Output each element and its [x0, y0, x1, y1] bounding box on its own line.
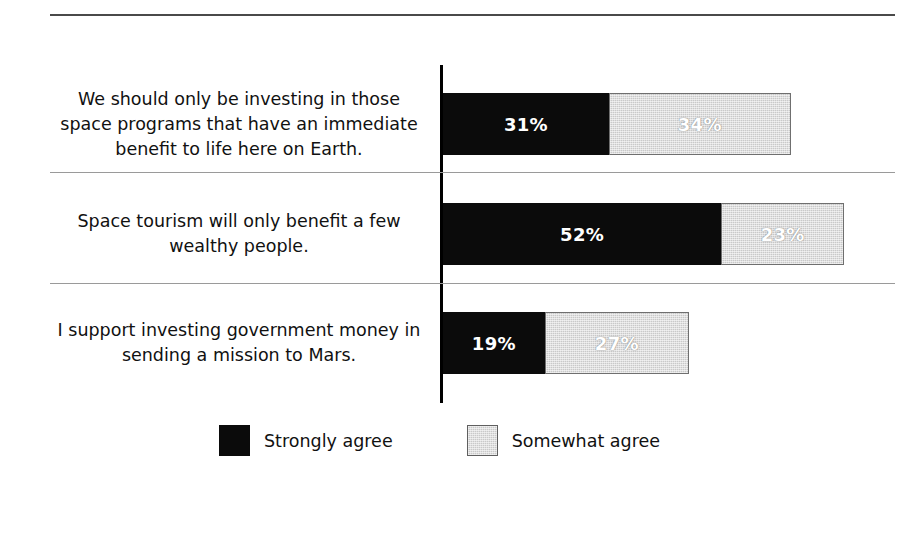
bar-segment-strongly-agree-2[interactable]: 19% [443, 312, 545, 374]
legend-item-strongly-agree[interactable]: Strongly agree [219, 425, 393, 456]
chart-row: We should only be investing in those spa… [0, 93, 910, 155]
bar-value-somewhat-agree-1: 23% [761, 224, 805, 245]
legend-swatch-somewhat-agree-icon [467, 425, 498, 456]
chart-legend: Strongly agree Somewhat agree [219, 425, 660, 456]
bar-segment-somewhat-agree-1[interactable]: 23% [721, 203, 844, 265]
row-separator-1 [50, 172, 895, 173]
chart-row: I support investing government money in … [0, 312, 910, 374]
bar-segment-somewhat-agree-2[interactable]: 27% [545, 312, 689, 374]
legend-swatch-strongly-agree-icon [219, 425, 250, 456]
stacked-bar-0: 31% 34% [443, 93, 791, 155]
bar-value-strongly-agree-0: 31% [504, 114, 548, 135]
bar-value-strongly-agree-2: 19% [472, 333, 516, 354]
plot-area: We should only be investing in those spa… [0, 60, 910, 405]
bar-value-strongly-agree-1: 52% [560, 224, 604, 245]
bar-segment-somewhat-agree-0[interactable]: 34% [609, 93, 791, 155]
category-label-1: Space tourism will only benefit a few we… [54, 209, 424, 259]
stacked-bar-1: 52% 23% [443, 203, 844, 265]
chart-row: Space tourism will only benefit a few we… [0, 203, 910, 265]
bar-segment-strongly-agree-1[interactable]: 52% [443, 203, 721, 265]
stacked-bar-2: 19% 27% [443, 312, 689, 374]
legend-label-somewhat-agree: Somewhat agree [512, 431, 660, 451]
category-label-0: We should only be investing in those spa… [54, 87, 424, 162]
category-label-2: I support investing government money in … [54, 318, 424, 368]
bar-value-somewhat-agree-2: 27% [595, 333, 639, 354]
bar-value-somewhat-agree-0: 34% [678, 114, 722, 135]
legend-label-strongly-agree: Strongly agree [264, 431, 393, 451]
top-divider-rule [50, 14, 895, 16]
row-separator-2 [50, 283, 895, 284]
legend-item-somewhat-agree[interactable]: Somewhat agree [467, 425, 660, 456]
stacked-bar-chart-figure: We should only be investing in those spa… [0, 0, 910, 547]
bar-segment-strongly-agree-0[interactable]: 31% [443, 93, 609, 155]
